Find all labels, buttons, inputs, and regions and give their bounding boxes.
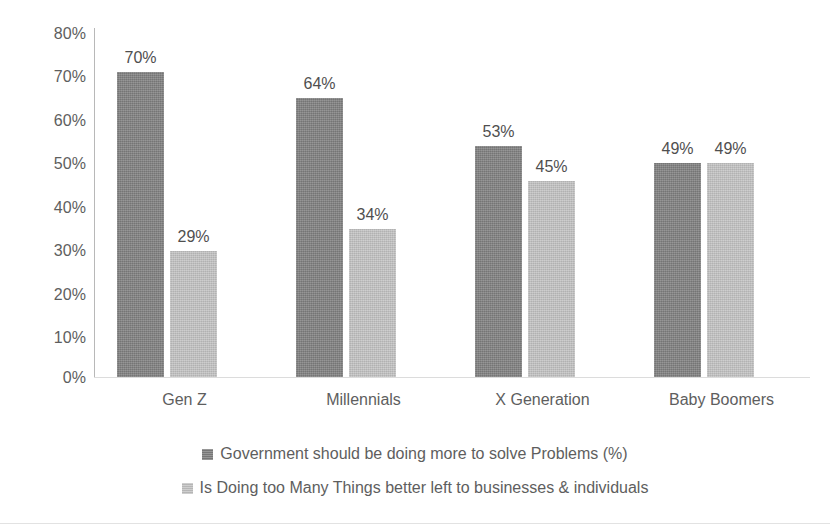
bar-millennials-government-more[interactable]: 64% [296,98,343,377]
x-tick-label-millennials: Millennials [274,390,453,410]
bar-value-label: 29% [177,229,209,245]
y-tick-label: 50% [0,156,86,172]
bar-gen-z-government-more[interactable]: 70% [117,72,164,377]
y-tick-label: 80% [0,26,86,42]
y-tick-label: 30% [0,243,86,259]
x-tick-label-baby-boomers: Baby Boomers [632,390,811,410]
y-tick-label: 0% [0,370,86,386]
bar-gen-z-too-many-things[interactable]: 29% [170,251,217,378]
x-axis: Gen Z Millennials X Generation Baby Boom… [95,390,810,418]
bar-millennials-too-many-things[interactable]: 34% [349,229,396,377]
legend-swatch-icon [182,483,193,494]
bar-cluster-gen-z: 70% 29% [95,28,274,377]
bar-cluster-baby-boomers: 49% 49% [632,28,811,377]
plot-area: 70% 29% 64% 34% 53% 45% 49% [95,28,810,377]
bar-value-label: 49% [661,141,693,157]
legend-item-label: Government should be doing more to solve… [220,445,627,463]
bar-cluster-x-generation: 53% 45% [453,28,632,377]
bar-baby-boomers-government-more[interactable]: 49% [654,163,701,377]
bar-value-label: 45% [535,159,567,175]
bar-chart: 80% 70% 60% 50% 40% 30% 20% 10% 0% 70% 2… [0,0,830,524]
chart-legend: Government should be doing more to solve… [0,437,830,505]
y-tick-label: 60% [0,113,86,129]
bar-baby-boomers-too-many-things[interactable]: 49% [707,163,754,377]
bar-x-generation-government-more[interactable]: 53% [475,146,522,377]
bar-value-label: 64% [303,76,335,92]
legend-item-label: Is Doing too Many Things better left to … [200,479,649,497]
bar-cluster-millennials: 64% 34% [274,28,453,377]
bar-value-label: 34% [356,207,388,223]
y-tick-label: 70% [0,69,86,85]
y-tick-label: 20% [0,287,86,303]
x-axis-line [94,377,810,378]
bar-value-label: 70% [124,50,156,66]
legend-item-too-many-things[interactable]: Is Doing too Many Things better left to … [0,471,830,505]
y-tick-label: 10% [0,330,86,346]
x-tick-label-x-generation: X Generation [453,390,632,410]
bar-value-label: 49% [714,141,746,157]
bar-value-label: 53% [482,124,514,140]
legend-item-government-more[interactable]: Government should be doing more to solve… [0,437,830,471]
x-tick-label-gen-z: Gen Z [95,390,274,410]
y-axis: 80% 70% 60% 50% 40% 30% 20% 10% 0% [0,0,86,390]
bar-x-generation-too-many-things[interactable]: 45% [528,181,575,377]
y-tick-label: 40% [0,200,86,216]
legend-swatch-icon [202,449,213,460]
